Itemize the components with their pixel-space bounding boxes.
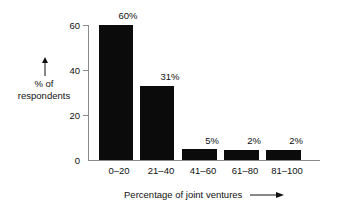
bar-81-100[interactable]: [266, 150, 301, 160]
bar-value-0-20: 60%: [88, 11, 168, 21]
x-axis-label-81-100: 81–100: [247, 166, 327, 176]
bar-value-21-40: 31%: [130, 72, 210, 82]
bar-0-20[interactable]: [99, 25, 133, 160]
bar-61-80[interactable]: [224, 150, 259, 160]
y-axis-tick-label-0: 0: [40, 156, 80, 166]
bar-chart: 60 40 20 0 % of respondents 60% 31% 5% 2…: [0, 0, 344, 213]
arrow-right-icon: [250, 190, 284, 198]
y-axis-title: % of respondents: [0, 78, 88, 101]
arrow-up-icon: [38, 57, 52, 77]
y-axis-title-line2: respondents: [0, 90, 88, 102]
x-axis-title: Percentage of joint ventures: [88, 188, 320, 200]
bar-21-40[interactable]: [140, 86, 174, 160]
y-axis-title-line1: % of: [0, 78, 88, 90]
x-axis-title-text: Percentage of joint ventures: [124, 189, 242, 200]
y-axis-tick-label-20: 20: [40, 111, 80, 121]
bar-41-60[interactable]: [182, 149, 217, 160]
x-axis-line: [88, 160, 320, 161]
y-axis-tick-label-60: 60: [40, 21, 80, 31]
bar-value-81-100: 2%: [256, 136, 336, 146]
